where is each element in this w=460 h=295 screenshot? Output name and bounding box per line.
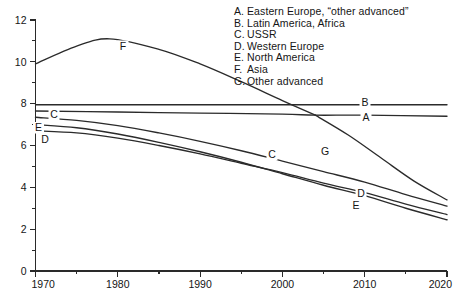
curve-label-d_right: D	[357, 187, 365, 199]
legend-label-a: Eastern Europe, “other advanced”	[247, 6, 454, 18]
legend-label-e: North America	[247, 52, 454, 64]
legend-label-f: Asia	[247, 64, 454, 76]
chart-figure: 024681012197019801990200020102020 FBACED…	[0, 0, 460, 295]
x-axis-tick-label: 1990	[188, 278, 212, 290]
series-line-e	[36, 125, 448, 220]
series-line-a	[36, 111, 448, 116]
legend-key-f: F.	[234, 64, 247, 76]
legend-label-g: Other advanced	[247, 76, 454, 88]
legend-key-g: G.	[234, 76, 247, 88]
y-axis-tick-label: 6	[21, 139, 27, 151]
x-axis-tick-label: 1980	[106, 278, 130, 290]
curve-label-a: A	[362, 111, 369, 123]
y-axis-tick-label: 2	[21, 223, 27, 235]
legend-item-g: G. Other advanced	[234, 76, 454, 88]
y-axis-tick-label: 8	[21, 97, 27, 109]
y-axis-tick-label: 0	[21, 265, 27, 277]
curve-label-e_right: E	[352, 199, 359, 211]
y-axis-tick-label: 4	[21, 181, 27, 193]
x-axis-tick-label: 1970	[32, 278, 56, 290]
curve-label-e_left: E	[35, 121, 42, 133]
x-axis-tick-label: 2000	[271, 278, 295, 290]
legend-item-f: F. Asia	[234, 64, 454, 76]
curve-label-f: F	[120, 40, 126, 52]
curve-label-b: B	[361, 96, 368, 108]
x-axis-tick-label: 2020	[429, 278, 453, 290]
legend-item-a: A. Eastern Europe, “other advanced”	[234, 6, 454, 18]
curve-label-g_mid: G	[321, 145, 329, 157]
y-axis-tick-label: 12	[15, 14, 27, 26]
curve-label-d_left: D	[41, 133, 49, 145]
y-axis-tick-label: 10	[15, 56, 27, 68]
curve-label-c_mid: C	[268, 148, 276, 160]
chart-legend: A. Eastern Europe, “other advanced” B. L…	[234, 6, 454, 87]
legend-key-a: A.	[234, 6, 247, 18]
x-axis-tick-label: 2010	[353, 278, 377, 290]
curve-label-c_left: C	[50, 108, 58, 120]
legend-label-b: Latin America, Africa	[247, 18, 454, 30]
